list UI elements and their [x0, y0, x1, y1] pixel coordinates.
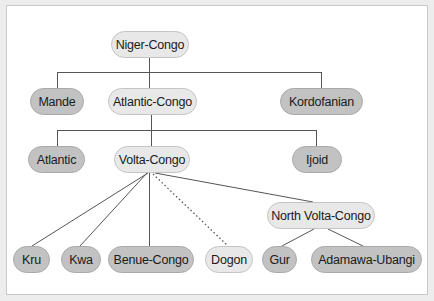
node-dogon: Dogon	[205, 246, 253, 273]
node-north-volta-congo: North Volta-Congo	[267, 202, 375, 229]
node-volta-congo: Volta-Congo	[114, 146, 190, 173]
edge-to-adamawa-ubangi	[328, 229, 363, 246]
node-kordofanian: Kordofanian	[280, 88, 363, 115]
node-niger-congo: Niger-Congo	[111, 31, 189, 58]
node-mande: Mande	[30, 88, 84, 115]
node-atlantic: Atlantic	[28, 146, 85, 173]
node-adamawa-ubangi: Adamawa-Ubangi	[311, 246, 422, 273]
node-ijoid: Ijoid	[292, 146, 342, 173]
edge-to-north-volta-congo	[155, 173, 313, 202]
node-kru: Kru	[13, 246, 50, 273]
node-benue-congo: Benue-Congo	[108, 246, 194, 273]
node-gur: Gur	[262, 246, 297, 273]
edge-to-gur	[282, 229, 314, 246]
node-atlantic-congo: Atlantic-Congo	[108, 88, 197, 115]
node-kwa: Kwa	[61, 246, 101, 273]
